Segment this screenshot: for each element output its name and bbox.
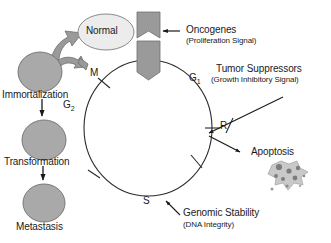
apoptotic-fragment — [281, 177, 285, 181]
cell-cycle-diagram: Normal Oncogenes (Proliferation Signal) … — [0, 0, 331, 243]
pointer-apoptosis — [209, 136, 240, 152]
down-arrow-segment-lower — [137, 41, 160, 80]
apoptotic-fragment — [296, 166, 300, 170]
apoptotic-fragment — [293, 176, 298, 181]
label-metastasis: Metastasis — [16, 222, 63, 233]
label-normal-cell: Normal — [86, 26, 118, 37]
label-immortalization: Immortalization — [2, 90, 68, 101]
label-genomic-stability-title: Genomic Stability — [183, 208, 259, 219]
curved-arrow-tail — [78, 58, 88, 70]
cell-metastasis — [23, 184, 65, 222]
phase-g2-sub: 2 — [71, 105, 75, 112]
phase-g2-letter: G — [63, 99, 71, 110]
apoptotic-fragment — [286, 168, 291, 173]
label-oncogenes-title: Oncogenes — [186, 25, 236, 36]
oncogene-down-arrow — [137, 12, 160, 80]
label-phase-g2: G2 — [63, 100, 74, 112]
phase-g1-sub: 1 — [197, 78, 201, 85]
apoptotic-fragment — [274, 174, 278, 178]
label-genomic-stability-subtitle: (DNA Integrity) — [183, 221, 234, 229]
apoptotic-cell-cluster — [268, 161, 308, 191]
cell-immortalization — [18, 52, 62, 92]
label-restriction-point-r: R — [220, 121, 227, 132]
apoptotic-fragment — [285, 184, 288, 187]
label-phase-s: S — [143, 196, 150, 207]
label-transformation: Transformation — [4, 157, 69, 168]
diagram-graphics-layer — [0, 0, 331, 243]
label-tumor-suppressors-title: Tumor Suppressors — [216, 64, 302, 75]
label-phase-g1: G1 — [189, 73, 200, 85]
phase-g1-letter: G — [189, 72, 197, 83]
down-arrow-segment-upper — [137, 12, 160, 38]
apoptotic-fragment — [303, 175, 306, 178]
apoptotic-fragment — [276, 164, 282, 170]
label-oncogenes-subtitle: (Proliferation Signal) — [186, 37, 256, 45]
cell-transformation — [22, 120, 66, 160]
label-phase-m: M — [90, 68, 98, 79]
label-tumor-suppressors-subtitle: (Growth Inhibitory Signal) — [211, 76, 299, 84]
apoptotic-fragment — [271, 188, 274, 191]
tick-s-checkpoint — [191, 155, 202, 168]
pointer-genomic-stability — [166, 201, 180, 215]
label-apoptosis-title: Apoptosis — [251, 147, 294, 158]
checkpoint-ticks — [88, 78, 233, 178]
apoptotic-fragment — [299, 185, 301, 187]
